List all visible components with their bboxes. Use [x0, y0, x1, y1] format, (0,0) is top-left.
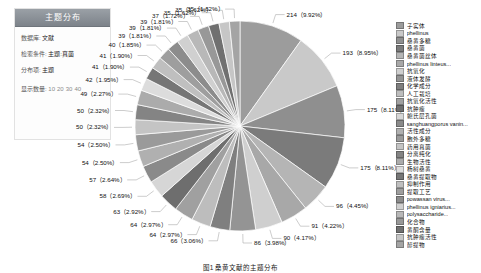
legend-swatch-icon [396, 196, 404, 203]
legend-item[interactable]: 抗氧化活性 [396, 97, 480, 105]
leader-line [116, 143, 134, 145]
legend-item[interactable]: 子实体 [396, 22, 480, 30]
legend-swatch-icon [396, 188, 404, 195]
pie-chart [120, 8, 360, 253]
chart-legend: 子实体phellinus桑黄多糖桑黄菌桑黄菌丝体phellinus linteu… [396, 22, 480, 248]
chart-page: 主题分布 数据库: 文献 检索条件: 主题:真菌 分布项: 主题 显示数量: 1… [0, 0, 481, 273]
leader-line [167, 28, 181, 36]
legend-swatch-icon [396, 98, 404, 105]
pie-data-label: 64（2.97%） [130, 221, 166, 228]
legend-item[interactable]: phellinus igniarius... [396, 203, 480, 211]
info-value-database: 文献 [42, 35, 54, 41]
legend-item[interactable]: 醇提物 [396, 241, 480, 249]
legend-label: 杨树桑黄 [407, 166, 431, 172]
legend-swatch-icon [396, 234, 404, 241]
leader-line [115, 111, 133, 112]
legend-item[interactable]: 生物活性 [396, 158, 480, 166]
pie-data-label: 50（2.32%） [76, 123, 112, 130]
legend-label: 桑黄提取物 [407, 174, 437, 180]
legend-swatch-icon [396, 60, 404, 67]
leader-line [127, 176, 144, 180]
legend-item[interactable]: 鲍氏层孔菌 [396, 113, 480, 121]
legend-swatch-icon [396, 166, 404, 173]
pie-data-label: 86（3.98%） [254, 239, 290, 246]
leader-line [168, 217, 182, 225]
legend-label: 分离纯化 [407, 151, 431, 157]
legend-swatch-icon [396, 113, 404, 120]
pie-data-label: 91（4.22%） [311, 222, 347, 229]
legend-swatch-icon [396, 90, 404, 97]
legend-item[interactable]: sanghuangporus vanin... [396, 120, 480, 128]
pie-data-label: 58（2.69%） [100, 192, 136, 199]
legend-item[interactable]: 活性成分 [396, 128, 480, 136]
legend-item[interactable]: 抗肿瘤活性 [396, 233, 480, 241]
pie-data-label: 175（8.11%） [360, 164, 399, 171]
pie-data-label: 39（1.81%） [129, 24, 165, 31]
legend-swatch-icon [396, 68, 404, 75]
legend-label: 抑制作用 [407, 181, 431, 187]
leader-line [151, 205, 166, 212]
legend-item[interactable]: 抗氧化 [396, 67, 480, 75]
legend-label: 桑黄菌 [407, 45, 425, 51]
legend-item[interactable]: 桑黄菌丝体 [396, 52, 480, 60]
legend-item[interactable]: 胞外多糖 [396, 135, 480, 143]
legend-item[interactable]: 抑制作用 [396, 180, 480, 188]
legend-item[interactable]: 分离纯化 [396, 150, 480, 158]
pie-data-label: 63（2.92%） [113, 208, 149, 215]
leader-line [209, 232, 220, 241]
legend-item[interactable]: 化学成分 [396, 82, 480, 90]
legend-item[interactable]: polysaccharide... [396, 211, 480, 219]
legend-label: 胞外多糖 [407, 136, 431, 142]
leader-line [156, 36, 171, 43]
legend-item[interactable]: 化合物 [396, 218, 480, 226]
leader-line [138, 56, 154, 61]
legend-swatch-icon [396, 241, 404, 248]
figure-caption: 图1 桑黄文献的主题分布 [0, 262, 481, 272]
leader-line [243, 234, 252, 243]
legend-item[interactable]: 桑黄多糖 [396, 37, 480, 45]
pie-data-label: 96（4.45%） [336, 202, 372, 209]
count-options[interactable]: 10203040 [48, 86, 83, 92]
legend-item[interactable]: phellinus linteus... [396, 60, 480, 68]
legend-item[interactable]: 黄酮含量 [396, 226, 480, 234]
legend-swatch-icon [396, 226, 404, 233]
pie-svg [120, 8, 360, 253]
leader-line [138, 191, 154, 196]
legend-item[interactable]: 提取工艺 [396, 188, 480, 196]
legend-label: sanghuangporus vanin... [407, 121, 468, 127]
count-option-30[interactable]: 30 [66, 86, 73, 92]
legend-item[interactable]: 人工栽培 [396, 90, 480, 98]
pie-data-label: 41（1.90%） [92, 63, 128, 70]
legend-item[interactable]: 桑黄提取物 [396, 173, 480, 181]
pie-data-label: 42（1.95%） [86, 76, 122, 83]
legend-label: 抗肿瘤 [407, 106, 425, 112]
legend-swatch-icon [396, 37, 404, 44]
legend-item[interactable]: 药用真菌 [396, 143, 480, 151]
legend-label: powassan virus... [407, 196, 450, 202]
legend-swatch-icon [396, 211, 404, 218]
leader-line [296, 219, 310, 227]
legend-swatch-icon [396, 45, 404, 52]
count-option-20[interactable]: 20 [57, 86, 64, 92]
legend-item[interactable]: phellinus [396, 30, 480, 38]
leader-line [118, 94, 136, 96]
info-value-field: 主题 [42, 67, 54, 73]
legend-swatch-icon [396, 120, 404, 127]
leader-line [147, 45, 163, 51]
legend-item[interactable]: 桑黄菌 [396, 45, 480, 53]
legend-item[interactable]: powassan virus... [396, 196, 480, 204]
pie-data-label: 66（3.06%） [171, 237, 207, 244]
pie-data-label: 54（2.50%） [82, 159, 118, 166]
pie-data-label: 50（2.32%） [77, 107, 113, 114]
legend-swatch-icon [396, 128, 404, 135]
leader-line [202, 13, 213, 22]
legend-swatch-icon [396, 135, 404, 142]
leader-line [270, 230, 282, 239]
info-value-query: 主题:真菌 [48, 51, 74, 57]
count-option-10[interactable]: 10 [48, 86, 55, 92]
legend-item[interactable]: 抗肿瘤 [396, 105, 480, 113]
legend-item[interactable]: 杨树桑黄 [396, 165, 480, 173]
legend-item[interactable]: 液体发酵 [396, 75, 480, 83]
leader-line [318, 200, 334, 206]
leader-line [190, 16, 202, 24]
